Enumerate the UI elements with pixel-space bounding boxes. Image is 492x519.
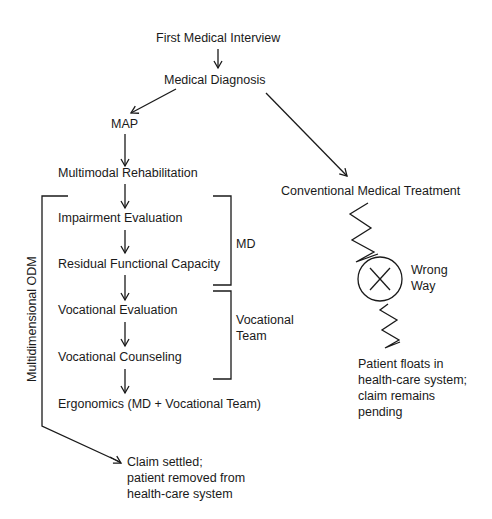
node-residual-functional-capacity: Residual Functional Capacity [58, 256, 220, 272]
zigzag-lower [380, 304, 400, 348]
arrow-diagnosis-to-conventional [266, 93, 347, 176]
zigzag-upper [350, 203, 378, 262]
outcome-settled-line2: patient removed from [127, 470, 245, 486]
outcome-floats-line3: claim remains [358, 388, 435, 404]
arrow-diagnosis-to-map [131, 89, 176, 113]
node-conventional-medical-treatment: Conventional Medical Treatment [281, 183, 460, 199]
bracket-label-vocational: Vocational [236, 312, 294, 328]
vocational-team-bracket [213, 291, 231, 379]
node-ergonomics: Ergonomics (MD + Vocational Team) [58, 396, 261, 412]
outcome-settled-line1: Claim settled; [127, 454, 203, 470]
bracket-label-md: MD [236, 236, 255, 252]
node-first-medical-interview: First Medical Interview [156, 30, 280, 46]
wrong-way-line1: Wrong [411, 262, 448, 278]
node-impairment-evaluation: Impairment Evaluation [58, 210, 182, 226]
node-vocational-counseling: Vocational Counseling [58, 349, 182, 365]
outcome-floats-line4: pending [358, 404, 403, 420]
outcome-settled-line3: health-care system [127, 486, 233, 502]
outcome-floats-line2: health-care system; [358, 372, 467, 388]
node-vocational-evaluation: Vocational Evaluation [58, 302, 178, 318]
node-multimodal-rehabilitation: Multimodal Rehabilitation [58, 165, 198, 181]
odm-bracket [42, 196, 120, 462]
wrong-way-line2: Way [411, 278, 436, 294]
node-medical-diagnosis: Medical Diagnosis [164, 72, 265, 88]
bracket-label-odm: Multidimensional ODM [25, 256, 39, 382]
node-map: MAP [111, 116, 138, 132]
bracket-label-team: Team [236, 328, 267, 344]
outcome-floats-line1: Patient floats in [358, 356, 443, 372]
